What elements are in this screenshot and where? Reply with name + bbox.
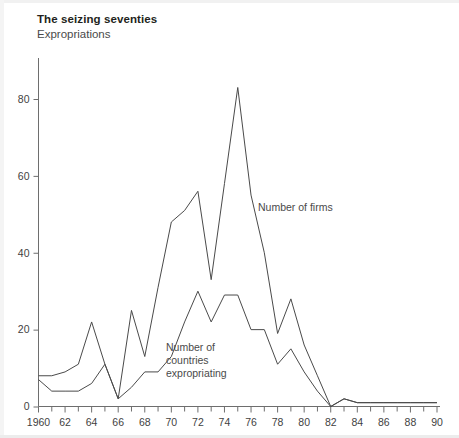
annotation-number-of-countries-line1: Number of [166,341,215,353]
y-tick-label: 40 [18,247,30,259]
line-chart: 020406080 196062646668707274767880828486… [0,0,459,438]
x-tick-label: 80 [298,416,310,428]
y-tick-label: 0 [24,400,30,412]
x-tick-label: 62 [59,416,71,428]
x-tick-label: 84 [351,416,363,428]
y-tick-label: 60 [18,170,30,182]
x-tick-label: 76 [245,416,257,428]
x-tick-label: 70 [165,416,177,428]
x-tick-label: 72 [192,416,204,428]
annotation-number-of-countries-line3: expropriating [166,367,227,379]
x-tick-label: 90 [431,416,443,428]
x-tick-label: 68 [139,416,151,428]
series-line-countries [39,291,438,406]
series-line-firms [39,87,438,406]
y-tick-label: 20 [18,323,30,335]
series-line-group [39,87,438,406]
x-tick-label: 64 [86,416,98,428]
annotation-number-of-firms: Number of firms [258,201,333,213]
chart-page: The seizing seventies Expropriations 020… [0,0,459,438]
x-tick-label: 82 [325,416,337,428]
x-tick-label: 78 [272,416,284,428]
y-tick-label: 80 [18,93,30,105]
y-tick-label-group: 020406080 [18,93,30,413]
x-tick-label: 88 [405,416,417,428]
x-tick-label: 66 [112,416,124,428]
annotation-number-of-countries-line2: countries [166,354,209,366]
x-tick-label-group: 1960626466687072747678808284868890 [27,416,443,428]
chart-svg: 020406080 196062646668707274767880828486… [0,0,459,438]
y-tick-group [34,100,39,408]
x-tick-label: 86 [378,416,390,428]
x-tick-group [39,407,438,413]
x-tick-label: 1960 [27,416,51,428]
x-tick-label: 74 [219,416,231,428]
chart-axes [39,58,441,407]
